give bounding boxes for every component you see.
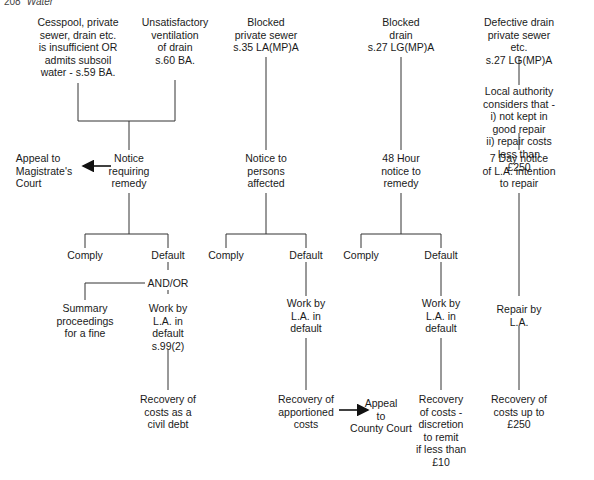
outcome-comply-col2: Comply (208, 249, 244, 262)
trigger-blocked-private-sewer: Blocked private sewer s.35 LA(MP)A (233, 16, 298, 54)
and-or-junction: AND/OR (148, 277, 189, 290)
outcome-default-col1: Default (151, 249, 184, 262)
outcome-default-col2: Default (289, 249, 322, 262)
work-by-la-col3: Work by L.A. in default (422, 297, 460, 335)
outcome-comply-col1: Comply (67, 249, 103, 262)
work-by-la-col2: Work by L.A. in default (287, 297, 325, 335)
recovery-apportioned-costs: Recovery of apportioned costs (278, 393, 334, 431)
work-by-la-col1: Work by L.A. in default s.99(2) (149, 302, 187, 352)
trigger-cesspool-insufficient: Cesspool, private sewer, drain etc. is i… (37, 16, 118, 79)
recovery-costs-up-to-250: Recovery of costs up to £250 (491, 393, 547, 431)
notice-48-hour: 48 Hour notice to remedy (381, 152, 421, 190)
appeal-county-court: Appeal to County Court (350, 397, 412, 435)
notice-7-day: 7 Day notice of L.A. intention to repair (483, 152, 556, 190)
appeal-magistrates-court: Appeal to Magistrate's Court (16, 152, 72, 190)
trigger-defective-drain: Defective drain private sewer etc. s.27 … (482, 16, 557, 66)
notice-requiring-remedy: Notice requiring remedy (109, 152, 150, 190)
notice-to-persons-affected: Notice to persons affected (245, 152, 286, 190)
outcome-comply-col3: Comply (343, 249, 379, 262)
trigger-blocked-drain: Blocked drain s.27 LG(MP)A (368, 16, 435, 54)
recovery-discretion-remit: Recovery of costs - discretion to remit … (416, 393, 466, 469)
summary-proceedings: Summary proceedings for a fine (56, 302, 113, 340)
repair-by-la: Repair by L.A. (497, 303, 542, 328)
trigger-unsatisfactory-ventilation: Unsatisfactory ventilation of drain s.60… (142, 16, 209, 66)
outcome-default-col3: Default (424, 249, 457, 262)
recovery-civil-debt: Recovery of costs as a civil debt (140, 393, 196, 431)
